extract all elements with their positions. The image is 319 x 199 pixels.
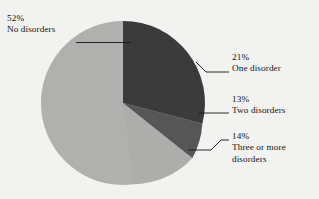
leader-line-one-disorder (196, 62, 229, 72)
slice-percent-one-disorder: 21% (232, 52, 281, 63)
pie-chart-figure: 52% No disorders 21% One disorder 13% Tw… (0, 0, 319, 199)
slice-name-one-disorder: One disorder (232, 63, 281, 74)
slice-label-one-disorder: 21% One disorder (232, 52, 281, 75)
slice-label-no-disorders: 52% No disorders (7, 13, 55, 36)
slice-percent-two-disorders: 13% (232, 94, 285, 105)
slice-name-two-disorders: Two disorders (232, 105, 285, 116)
slice-name-three-or-more: Three or more disorders (232, 142, 316, 165)
slice-percent-three-or-more: 14% (232, 131, 316, 142)
slice-label-two-disorders: 13% Two disorders (232, 94, 285, 117)
slice-label-three-or-more: 14% Three or more disorders (232, 131, 316, 165)
slice-name-no-disorders: No disorders (7, 24, 55, 35)
slice-percent-no-disorders: 52% (7, 13, 55, 24)
